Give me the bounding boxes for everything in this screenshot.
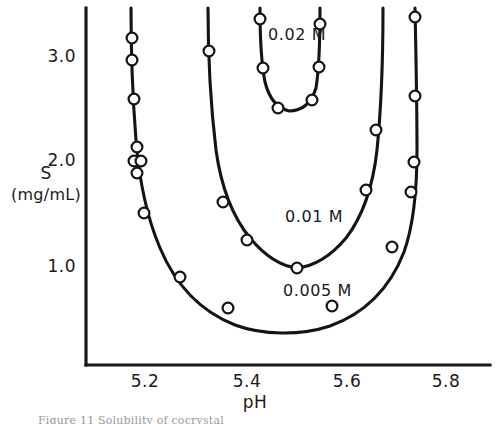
axes-group — [86, 8, 490, 365]
series-002M-group — [255, 8, 326, 113]
x-tick-label-5.8: 5.8 — [421, 371, 471, 391]
y-tick-label-3: 3.0 — [28, 46, 76, 66]
x-axis-title: pH — [205, 392, 305, 412]
x-tick-label-5.6: 5.6 — [322, 371, 372, 391]
figure-container: 3.0 2.0 1.0 5.2 5.4 5.6 5.8 S (mg/mL) pH… — [0, 0, 497, 424]
x-tick-label-5.2: 5.2 — [120, 371, 170, 391]
series-label-0.02M: 0.02 M — [268, 25, 326, 44]
series-label-0.005M: 0.005 M — [283, 281, 352, 300]
markers-001M — [204, 46, 382, 274]
series-0005M-group — [127, 8, 421, 333]
y-axis-title: S (mg/mL) — [10, 163, 82, 205]
y-axis-symbol: S — [41, 163, 52, 183]
figure-caption: Figure 11 Solubility of cocrystal — [38, 414, 224, 424]
y-tick-label-1: 1.0 — [28, 256, 76, 276]
y-axis-unit: (mg/mL) — [10, 184, 82, 205]
x-tick-label-5.4: 5.4 — [222, 371, 272, 391]
series-001M-group — [204, 8, 383, 273]
series-label-0.01M: 0.01 M — [285, 207, 343, 226]
curve-001M — [208, 8, 383, 268]
